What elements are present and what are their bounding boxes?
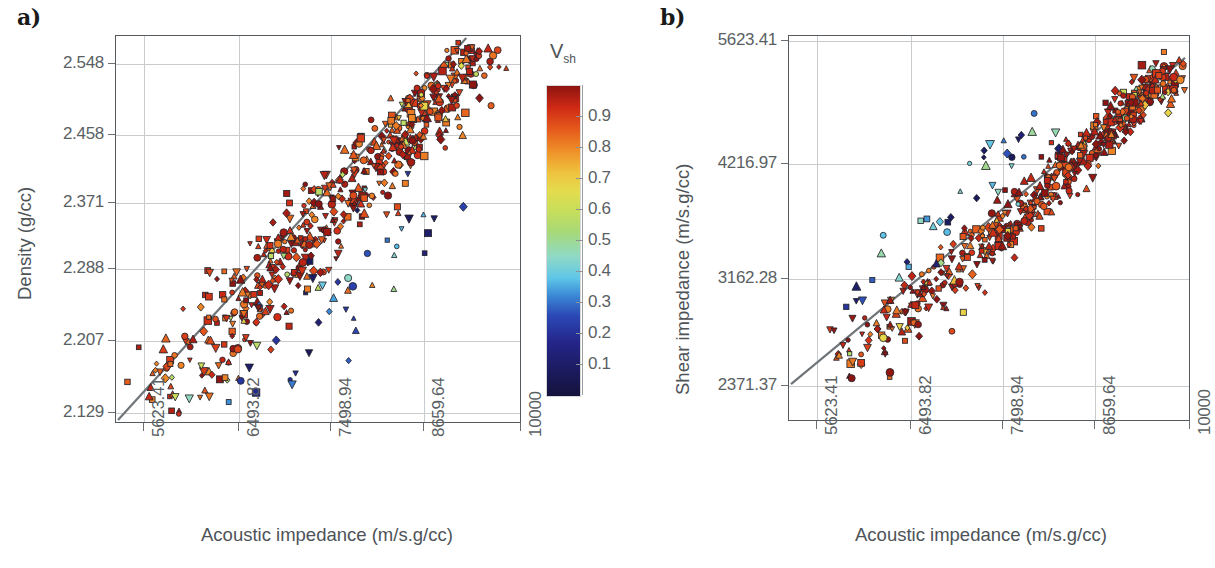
scatter-points-panel-b — [789, 36, 1190, 421]
xtick-mark — [238, 423, 239, 431]
ytick-label: 5623.41 — [680, 30, 777, 50]
xtick-mark — [816, 421, 817, 429]
xtick-mark — [330, 423, 331, 431]
ytick-mark — [781, 278, 788, 279]
ytick-label: 2.458 — [20, 124, 104, 144]
xtick-label: 8659.64 — [1100, 376, 1120, 435]
xtick-label: 7498.94 — [1008, 376, 1028, 435]
ytick-label: 2.548 — [20, 53, 104, 73]
xtick-label: 7498.94 — [336, 378, 356, 437]
ytick-mark — [781, 385, 788, 386]
panel-b-label: b) — [660, 4, 685, 30]
colorbar-tick-mark — [576, 333, 583, 334]
ytick-mark — [108, 340, 115, 341]
colorbar-tick-label: 0.5 — [588, 230, 611, 250]
colorbar-tick-mark — [576, 209, 583, 210]
x-axis-title-b: Acoustic impedance (m/s.g/cc) — [855, 524, 1107, 546]
ytick-mark — [108, 134, 115, 135]
ytick-mark — [108, 202, 115, 203]
x-axis-title-a: Acoustic impedance (m/s.g/cc) — [201, 524, 453, 546]
ytick-label: 3162.28 — [680, 268, 777, 288]
colorbar-tick-mark — [576, 240, 583, 241]
colorbar-tick-label: 0.9 — [588, 106, 611, 126]
xtick-label: 6493.82 — [244, 378, 264, 437]
ytick-label: 2371.37 — [680, 375, 777, 395]
colorbar-tick-label: 0.7 — [588, 168, 611, 188]
scatter-plot-panel-a[interactable] — [115, 35, 521, 423]
colorbar-tick-label: 0.6 — [588, 199, 611, 219]
colorbar-tick-mark — [576, 271, 583, 272]
colorbar-tick-mark — [576, 178, 583, 179]
colorbar-tick-mark — [576, 116, 583, 117]
xtick-label: 5623.41 — [149, 378, 169, 437]
colorbar-tick-mark — [576, 364, 583, 365]
colorbar-tick-label: 0.1 — [588, 354, 611, 374]
scatter-plot-panel-b[interactable] — [788, 35, 1190, 421]
colorbar-tick-label: 0.4 — [588, 261, 611, 281]
xtick-label: 10000 — [526, 391, 546, 437]
xtick-mark — [1002, 421, 1003, 429]
ytick-mark — [108, 412, 115, 413]
ytick-label: 4216.97 — [680, 153, 777, 173]
xtick-mark — [143, 423, 144, 431]
scatter-points-panel-a — [116, 36, 521, 423]
colorbar-tick-label: 0.3 — [588, 292, 611, 312]
ytick-label: 2.129 — [20, 402, 104, 422]
colorbar-gradient — [546, 85, 581, 397]
y-axis-title-a: Density (g/cc) — [14, 187, 36, 300]
colorbar-title-sub: sh — [563, 52, 576, 66]
ytick-mark — [108, 268, 115, 269]
y-axis-title-b: Shear impedance (m/s.g/cc) — [672, 164, 694, 395]
ytick-label: 2.207 — [20, 330, 104, 350]
colorbar-tick-mark — [576, 147, 583, 148]
ytick-mark — [108, 63, 115, 64]
xtick-label: 6493.82 — [916, 376, 936, 435]
ytick-mark — [781, 40, 788, 41]
ytick-mark — [781, 163, 788, 164]
xtick-label: 10000 — [1195, 389, 1215, 435]
xtick-label: 8659.64 — [429, 378, 449, 437]
xtick-mark — [1189, 421, 1190, 429]
xtick-mark — [1094, 421, 1095, 429]
xtick-mark — [423, 423, 424, 431]
colorbar-tick-label: 0.8 — [588, 137, 611, 157]
colorbar-tick-label: 0.2 — [588, 323, 611, 343]
xtick-label: 5623.41 — [822, 376, 842, 435]
caption-strip — [0, 556, 1209, 568]
panel-a-label: a) — [17, 4, 41, 30]
colorbar-title: Vsh — [550, 40, 576, 66]
colorbar-title-main: V — [550, 40, 563, 62]
xtick-mark — [520, 423, 521, 431]
xtick-mark — [910, 421, 911, 429]
colorbar-tick-mark — [576, 302, 583, 303]
